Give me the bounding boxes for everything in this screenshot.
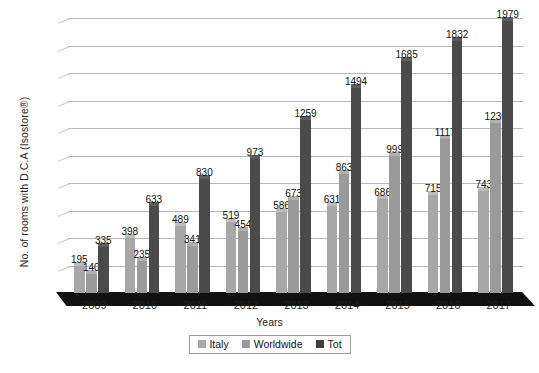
bar-column[interactable]: 715 [428, 195, 439, 293]
bar-group-2010: 398235633 [125, 18, 160, 293]
legend-item-tot[interactable]: Tot [316, 338, 342, 350]
bar-column[interactable]: 999 [389, 156, 400, 293]
bar-face [478, 191, 489, 293]
bar-column[interactable]: 1832 [452, 41, 463, 293]
bar-value-label: 1685 [395, 50, 417, 60]
bar-column[interactable]: 1979 [502, 21, 513, 293]
bar-italy-2014[interactable]: 631 [327, 18, 338, 293]
bar-tot-2013[interactable]: 1259 [300, 18, 311, 293]
bar-column[interactable]: 1259 [300, 120, 311, 293]
bar-column[interactable]: 1494 [351, 88, 362, 293]
bar-group-2013: 5866731259 [276, 18, 311, 293]
bar-value-label: 973 [247, 148, 264, 158]
bar-group-2009: 195140335 [74, 18, 109, 293]
x-axis-tick-label-2009: 2009 [82, 299, 106, 311]
bar-value-label: 1494 [345, 77, 367, 87]
bar-column[interactable]: 673 [288, 200, 299, 293]
x-axis-tick-label-2014: 2014 [335, 299, 359, 311]
bar-tot-2010[interactable]: 633 [149, 18, 160, 293]
legend-item-worldwide[interactable]: Worldwide [242, 338, 303, 350]
bar-column[interactable]: 341 [187, 246, 198, 293]
bar-column[interactable]: 863 [339, 174, 350, 293]
bar-value-label: 633 [145, 195, 162, 205]
legend-swatch-icon [197, 340, 205, 348]
chart-legend[interactable]: ItalyWorldwideTot [188, 335, 350, 354]
bar-column[interactable]: 633 [149, 206, 160, 293]
bar-column[interactable]: 1236 [490, 123, 501, 293]
bar-face [86, 274, 97, 293]
bar-worldwide-2017[interactable]: 1236 [490, 18, 501, 293]
bar-column[interactable]: 519 [226, 222, 237, 293]
legend-label: Worldwide [254, 338, 303, 350]
bar-column[interactable]: 1685 [401, 61, 412, 293]
bar-groups: 1951403353982356334893418305194549735866… [68, 18, 523, 293]
bar-column[interactable]: 631 [327, 206, 338, 293]
y-axis-title: No. of rooms with D.C.A (Isostore®) [18, 62, 30, 302]
bar-column[interactable]: 743 [478, 191, 489, 293]
bar-face [276, 212, 287, 293]
bar-tot-2012[interactable]: 973 [250, 18, 261, 293]
x-axis-tick-label-2016: 2016 [436, 299, 460, 311]
bar-face [452, 41, 463, 293]
bar-value-label: 335 [95, 236, 112, 246]
bar-face [288, 200, 299, 293]
bar-face [187, 246, 198, 293]
bar-face [250, 159, 261, 293]
x-axis-tick-label-2010: 2010 [133, 299, 157, 311]
bar-italy-2011[interactable]: 489 [175, 18, 186, 293]
bar-italy-2017[interactable]: 743 [478, 18, 489, 293]
bar-tot-2014[interactable]: 1494 [351, 18, 362, 293]
bar-face [440, 139, 451, 293]
bar-face [137, 261, 148, 293]
bar-face [300, 120, 311, 293]
bar-column[interactable]: 398 [125, 238, 136, 293]
x-axis-tick-label-2017: 2017 [486, 299, 510, 311]
x-axis-tick-label-2013: 2013 [284, 299, 308, 311]
bar-italy-2015[interactable]: 686 [377, 18, 388, 293]
bar-tot-2017[interactable]: 1979 [502, 18, 513, 293]
legend-item-italy[interactable]: Italy [197, 338, 228, 350]
bar-tot-2009[interactable]: 335 [98, 18, 109, 293]
chart-figure: No. of rooms with D.C.A (Isostore®) 0200… [0, 0, 539, 373]
bar-worldwide-2014[interactable]: 863 [339, 18, 350, 293]
legend-swatch-icon [316, 340, 324, 348]
bar-tot-2015[interactable]: 1685 [401, 18, 412, 293]
bar-tot-2016[interactable]: 1832 [452, 18, 463, 293]
bar-face [490, 123, 501, 293]
bar-face [401, 61, 412, 293]
legend-swatch-icon [242, 340, 250, 348]
bar-column[interactable]: 686 [377, 199, 388, 293]
bar-column[interactable]: 454 [238, 231, 249, 293]
bar-worldwide-2009[interactable]: 140 [86, 18, 97, 293]
bar-face [125, 238, 136, 293]
bar-value-label: 1979 [497, 10, 519, 20]
bar-column[interactable]: 973 [250, 159, 261, 293]
bar-group-2015: 6869991685 [377, 18, 412, 293]
bar-worldwide-2011[interactable]: 341 [187, 18, 198, 293]
bar-italy-2013[interactable]: 586 [276, 18, 287, 293]
caption-strip [0, 368, 539, 373]
bar-tot-2011[interactable]: 830 [199, 18, 210, 293]
bar-value-label: 1259 [294, 109, 316, 119]
bar-worldwide-2016[interactable]: 1117 [440, 18, 451, 293]
bar-worldwide-2010[interactable]: 235 [137, 18, 148, 293]
plot-area: 0200400600800100012001400160018002000 19… [68, 18, 523, 293]
bar-italy-2012[interactable]: 519 [226, 18, 237, 293]
bar-face [98, 247, 109, 293]
bar-face [149, 206, 160, 293]
bar-italy-2016[interactable]: 715 [428, 18, 439, 293]
bar-column[interactable]: 830 [199, 179, 210, 293]
bar-column[interactable]: 1117 [440, 139, 451, 293]
bar-column[interactable]: 140 [86, 274, 97, 293]
bar-italy-2009[interactable]: 195 [74, 18, 85, 293]
bar-face [327, 206, 338, 293]
bar-group-2014: 6318631494 [327, 18, 362, 293]
bar-column[interactable]: 235 [137, 261, 148, 293]
bar-worldwide-2013[interactable]: 673 [288, 18, 299, 293]
bar-face [226, 222, 237, 293]
bar-column[interactable]: 586 [276, 212, 287, 293]
bar-column[interactable]: 335 [98, 247, 109, 293]
bar-face [389, 156, 400, 293]
x-axis-tick-label-2011: 2011 [184, 299, 208, 311]
legend-label: Tot [328, 338, 342, 350]
